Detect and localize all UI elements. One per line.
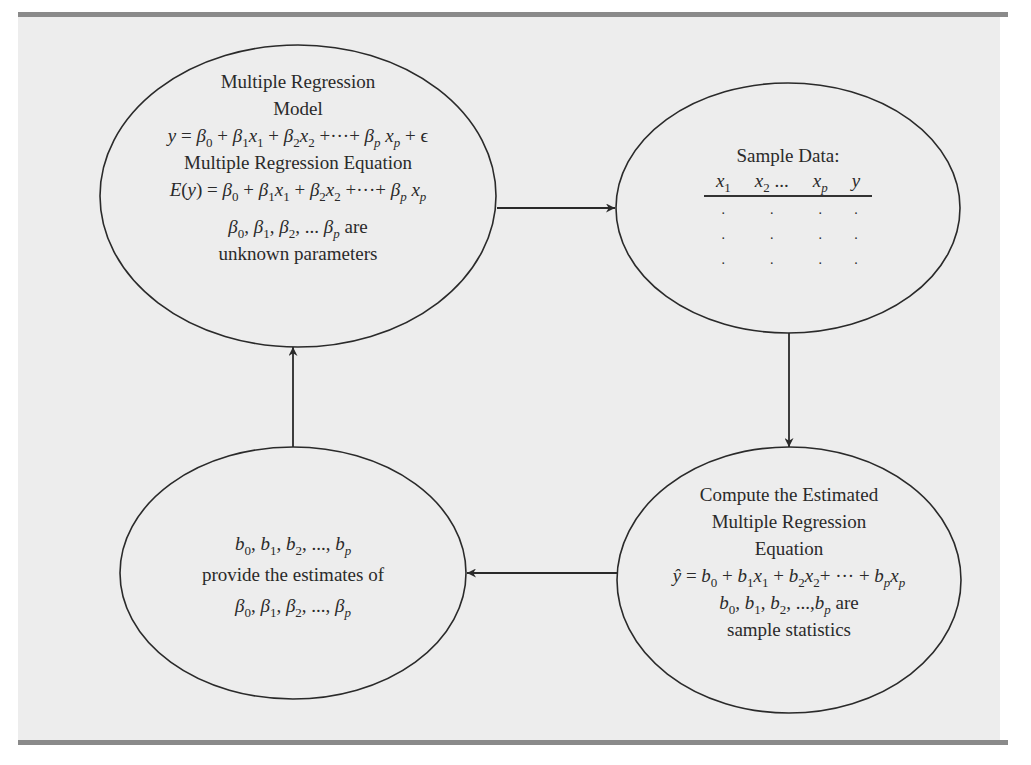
- model-params-note: unknown parameters: [100, 240, 496, 267]
- col-y: y: [840, 169, 872, 196]
- col-xp: xp: [801, 169, 840, 196]
- sample-heading: Sample Data:: [640, 142, 936, 169]
- model-heading-2: Model: [100, 95, 496, 122]
- col-x2: x2 ...: [743, 169, 801, 196]
- model-params: β0, β1, β2, ... βp are: [100, 213, 496, 240]
- model-equation-heading: Multiple Regression Equation: [100, 149, 496, 176]
- sample-data-table: x1 x2 ... xp y .... .... ....: [704, 169, 872, 272]
- col-x1: x1: [704, 169, 743, 196]
- table-row: ....: [704, 196, 872, 222]
- estimates-coefficients: b0, b1, b2, ..., bp: [120, 528, 466, 559]
- compute-heading-2: Multiple Regression: [617, 508, 961, 535]
- compute-stats: b0, b1, b2, ...,bp are: [617, 589, 961, 616]
- model-heading-1: Multiple Regression: [100, 68, 496, 95]
- compute-heading-1: Compute the Estimated: [617, 481, 961, 508]
- node-sample: Sample Data: x1 x2 ... xp y .... .... ..…: [640, 142, 936, 272]
- table-row: ....: [704, 222, 872, 247]
- table-row: ....: [704, 247, 872, 272]
- estimates-text: provide the estimates of: [120, 559, 466, 590]
- compute-heading-3: Equation: [617, 535, 961, 562]
- estimates-parameters: β0, β1, β2, ..., βp: [120, 590, 466, 621]
- estimated-equation: ŷ = b0 + b1x1 + b2x2+ ··· + bpxp: [617, 562, 961, 589]
- node-compute: Compute the Estimated Multiple Regressio…: [617, 481, 961, 643]
- compute-stats-note: sample statistics: [617, 616, 961, 643]
- expected-value-equation: E(y) = β0 + β1x1 + β2x2 +···+ βp xp: [100, 176, 496, 203]
- node-model: Multiple Regression Model y = β0 + β1x1 …: [100, 68, 496, 267]
- model-equation: y = β0 + β1x1 + β2x2 +···+ βp xp + ϵ: [100, 122, 496, 149]
- node-estimates: b0, b1, b2, ..., bp provide the estimate…: [120, 528, 466, 621]
